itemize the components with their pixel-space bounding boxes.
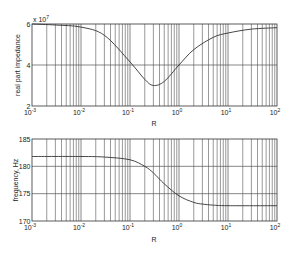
chart-figure: 642 10-310-210-1100101102 x 107 real par… [0, 0, 296, 253]
impedance-plot: 642 10-310-210-1100101102 x 107 real par… [14, 14, 281, 127]
y-tick-label: 4 [27, 62, 31, 69]
y-tick-label: 180 [19, 163, 31, 170]
x-tick-label: 102 [270, 107, 281, 116]
x-tick-label: 102 [270, 222, 281, 231]
impedance-curve [32, 24, 277, 86]
impedance-plot-grid [32, 24, 277, 106]
x-tick-label: 10-3 [24, 107, 36, 116]
impedance-y-axis-label: real part impedance [14, 34, 22, 96]
impedance-y-ticks: 642 [27, 21, 31, 110]
y-tick-label: 6 [27, 21, 31, 28]
x-tick-label: 10-3 [24, 222, 36, 231]
impedance-multiplier: x 107 [33, 14, 49, 23]
x-tick-label: 100 [172, 107, 183, 116]
impedance-x-ticks: 10-310-210-1100101102 [24, 107, 281, 116]
frequency-x-ticks: 10-310-210-1100101102 [24, 222, 281, 231]
x-tick-label: 101 [221, 107, 232, 116]
frequency-y-ticks: 185180175170 [19, 136, 31, 225]
frequency-plot-grid [32, 139, 277, 221]
x-tick-label: 10-2 [73, 222, 85, 231]
impedance-x-axis-label: R [151, 120, 156, 127]
frequency-plot-frame [32, 139, 277, 221]
frequency-y-axis-label: frequency, Hz [12, 158, 20, 201]
x-tick-label: 10-2 [73, 107, 85, 116]
x-tick-label: 10-1 [122, 107, 134, 116]
frequency-curve [32, 156, 277, 205]
frequency-plot: 185180175170 10-310-210-1100101102 frequ… [12, 136, 281, 244]
x-tick-label: 101 [221, 222, 232, 231]
frequency-x-axis-label: R [151, 236, 156, 243]
y-tick-label: 185 [19, 136, 31, 143]
x-tick-label: 10-1 [122, 222, 134, 231]
x-tick-label: 100 [172, 222, 183, 231]
y-tick-label: 175 [19, 190, 31, 197]
